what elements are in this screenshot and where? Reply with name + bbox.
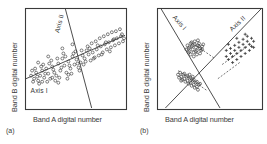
panel-a-x-axis-title: Band A digital number <box>33 115 102 124</box>
figure-root: Band B digital number Axis IIAxis I Band… <box>0 0 267 144</box>
panel-a: Band B digital number Axis IIAxis I Band… <box>0 0 133 144</box>
panel-a-axis-ii-label: Axis II <box>53 13 65 33</box>
panel-b-tag: (b) <box>140 127 149 134</box>
panel-b-axis-i-label: Axis I <box>172 14 189 31</box>
panel-b-x-axis-title: Band A digital number <box>165 115 234 124</box>
panel-b-axis-ii-label: Axis II <box>228 14 247 32</box>
panel-a-tag: (a) <box>6 127 15 134</box>
panel-b: Band B digital number Axis IAxis II Band… <box>133 0 266 144</box>
panel-a-axis-i-label: Axis I <box>31 87 48 94</box>
